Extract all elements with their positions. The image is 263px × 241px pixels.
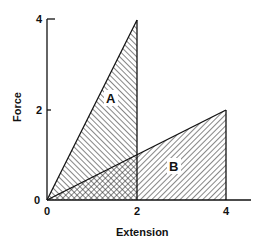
x-tick-label-0: 0 <box>44 205 50 217</box>
region-a-label: A <box>106 91 116 106</box>
x-tick-label-2: 2 <box>134 205 140 217</box>
y-tick-label-2: 2 <box>36 104 42 116</box>
y-tick-label-4: 4 <box>36 13 43 25</box>
x-axis-title: Extension <box>116 226 169 238</box>
force-extension-chart: 4 2 0 0 2 4 A B Extension Force <box>0 0 263 241</box>
y-tick-label-0: 0 <box>34 194 40 206</box>
region-b-label: B <box>169 159 178 174</box>
x-tick-label-4: 4 <box>223 205 230 217</box>
y-axis-title: Force <box>11 92 23 122</box>
